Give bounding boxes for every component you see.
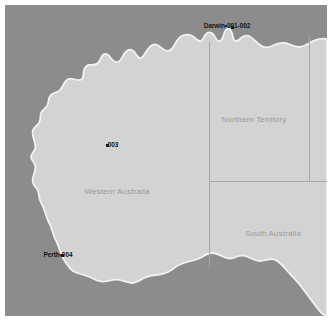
map-marker-label-darwin[interactable]: Darwin•001-002 <box>204 22 250 29</box>
final-map-layer <box>5 5 327 316</box>
state-label-western-australia: Western Australia <box>84 187 149 196</box>
map-marker-label-perth[interactable]: Perth•004 <box>44 251 73 258</box>
map-vector-layer <box>5 5 327 316</box>
map-container[interactable]: Northern Territory Western Australia Sou… <box>0 0 332 322</box>
state-label-northern-territory: Northern Territory <box>222 115 287 124</box>
map-canvas[interactable]: Northern Territory Western Australia Sou… <box>5 5 327 316</box>
map-marker-label-site-003[interactable]: •003 <box>106 141 119 148</box>
state-label-south-australia: South Australia <box>245 229 301 238</box>
